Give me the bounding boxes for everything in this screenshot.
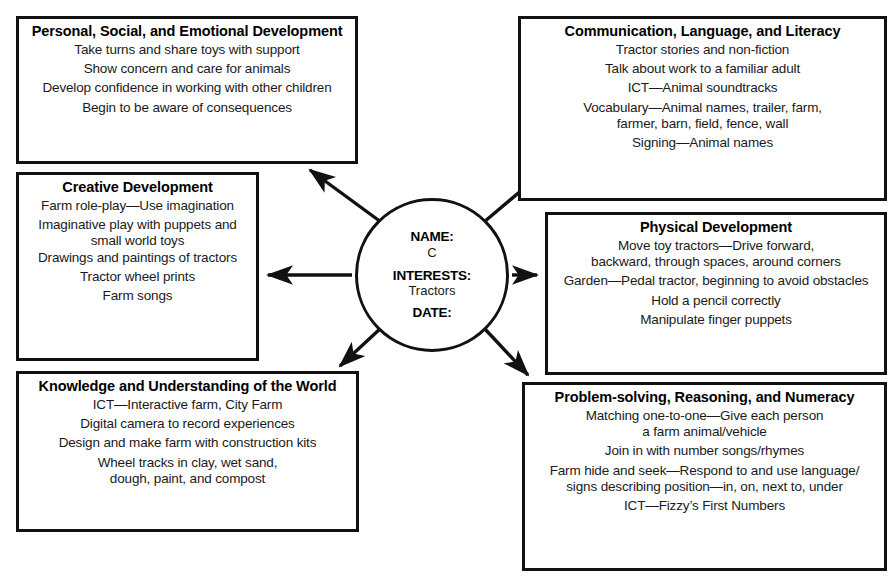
node-title: Creative Development (25, 179, 250, 196)
node-line: Move toy tractors—Drive forward, (554, 238, 878, 254)
node-line: Develop confidence in working with other… (25, 80, 349, 96)
hub-date-label: DATE: (412, 305, 451, 321)
node-line: Wheel tracks in clay, wet sand, (25, 455, 350, 471)
arrow-hub-to-knowledge (340, 328, 381, 366)
node-title: Physical Development (554, 219, 878, 236)
node-line: Hold a pencil correctly (554, 293, 878, 309)
node-line: Tractor wheel prints (25, 269, 250, 285)
hub-name-value: C (427, 246, 436, 261)
arrow-hub-to-problem-solving (484, 328, 528, 375)
node-line: Imaginative play with puppets and (25, 217, 250, 233)
node-line: dough, paint, and compost (25, 471, 350, 487)
node-line: Vocabulary—Animal names, trailer, farm, (527, 100, 878, 116)
node-line: Show concern and care for animals (25, 61, 349, 77)
node-title: Personal, Social, and Emotional Developm… (25, 23, 349, 40)
node-line: Signing—Animal names (527, 135, 878, 151)
node-line: Garden—Pedal tractor, beginning to avoid… (554, 273, 878, 289)
node-line: Join in with number songs/rhymes (531, 443, 878, 459)
hub-interests-value: Tractors (408, 284, 455, 299)
node-line: ICT—Animal soundtracks (527, 80, 878, 96)
node-line: Drawings and paintings of tractors (25, 250, 250, 266)
node-line: Digital camera to record experiences (25, 416, 350, 432)
node-line: Farm songs (25, 288, 250, 304)
node-line: a farm animal/vehicle (531, 424, 878, 440)
node-line: farmer, barn, field, fence, wall (527, 116, 878, 132)
node-line: ICT—Fizzy’s First Numbers (531, 498, 878, 514)
node-line: Take turns and share toys with support (25, 42, 349, 58)
node-knowledge-understanding-world[interactable]: Knowledge and Understanding of the World… (16, 371, 359, 532)
node-title: Communication, Language, and Literacy (527, 23, 878, 40)
diagram-canvas: Personal, Social, and Emotional Developm… (0, 0, 893, 576)
node-creative-development[interactable]: Creative Development Farm role-play—Use … (16, 172, 259, 361)
node-line: Tractor stories and non-fiction (527, 42, 878, 58)
node-line: Farm role-play—Use imagination (25, 198, 250, 214)
node-line: Begin to be aware of consequences (25, 100, 349, 116)
node-line: backward, through spaces, around corners (554, 254, 878, 270)
node-line: Talk about work to a familiar adult (527, 61, 878, 77)
node-line: Manipulate finger puppets (554, 312, 878, 328)
node-line: Design and make farm with construction k… (25, 435, 350, 451)
node-line: small world toys (25, 233, 250, 249)
node-title: Problem-solving, Reasoning, and Numeracy (531, 389, 878, 406)
node-physical-development[interactable]: Physical Development Move toy tractors—D… (545, 212, 887, 375)
node-problem-solving-reasoning-numeracy[interactable]: Problem-solving, Reasoning, and Numeracy… (522, 382, 887, 571)
hub-interests-label: INTERESTS: (393, 268, 471, 284)
node-line: ICT—Interactive farm, City Farm (25, 397, 350, 413)
node-line: Matching one-to-one—Give each person (531, 408, 878, 424)
hub-name-label: NAME: (410, 229, 453, 245)
node-line: signs describing position—in, on, next t… (531, 479, 878, 495)
node-line: Farm hide and seek—Respond to and use la… (531, 463, 878, 479)
hub-circle-child-profile[interactable]: NAME: C INTERESTS: Tractors DATE: (355, 198, 509, 352)
node-personal-social-emotional-development[interactable]: Personal, Social, and Emotional Developm… (16, 16, 358, 164)
node-title: Knowledge and Understanding of the World (25, 378, 350, 395)
node-communication-language-literacy[interactable]: Communication, Language, and Literacy Tr… (518, 16, 887, 201)
arrow-hub-to-personal-social-emotional (310, 170, 381, 222)
